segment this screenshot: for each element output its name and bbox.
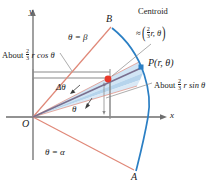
paren-close: ) (162, 25, 166, 41)
arc-point-dot (139, 65, 144, 70)
origin-label: O (22, 119, 29, 129)
about-sin-fraction: 2 3 (178, 78, 181, 91)
polar-centroid-diagram: y x O B A P(r, θ) Centroid ≈ ( 2 3 r, θ … (0, 0, 219, 189)
paren-open: ( (142, 25, 146, 41)
centroid-title-label: Centroid (138, 7, 168, 16)
point-a-label: A (131, 172, 137, 182)
point-b-label: B (106, 14, 112, 24)
centroid-value-label: ≈ ( 2 3 r, θ ) (136, 25, 167, 41)
guide-sin-arrow-bottom (102, 111, 105, 115)
delta-theta-label: Δθ (56, 83, 66, 92)
point-p-label: P(r, θ) (148, 58, 173, 68)
about-cos-fraction: 2 3 (26, 48, 29, 61)
centroid-point-dot (105, 76, 112, 83)
y-axis-label: y (29, 7, 33, 16)
centroid-ray (33, 68, 141, 117)
ray-beta-label: θ = β (68, 33, 87, 42)
centroid-approx-sign: ≈ (136, 29, 141, 38)
x-axis-arrowhead (160, 114, 167, 120)
x-axis-label: x (170, 111, 174, 120)
theta-label: θ (72, 105, 76, 114)
diagram-canvas (0, 0, 219, 189)
slice-fill-lower (33, 73, 143, 117)
ray-alpha-label: θ = α (45, 148, 65, 157)
arc-r-equals-f-theta (112, 28, 149, 171)
about-cos-label: About 2 3 r cos θ (2, 48, 55, 61)
about-sin-label: About 2 3 r sin θ (154, 78, 205, 91)
about-sin-prefix: About (154, 80, 175, 90)
about-sin-tail: r sin θ (184, 80, 206, 90)
centroid-value-tail: r, θ (150, 29, 161, 38)
about-cos-prefix: About (2, 50, 23, 60)
about-cos-tail: r cos θ (32, 50, 55, 60)
ray-theta-alpha (33, 117, 134, 170)
leader-theta-arrow (85, 103, 90, 109)
leader-about-cos (60, 53, 72, 71)
